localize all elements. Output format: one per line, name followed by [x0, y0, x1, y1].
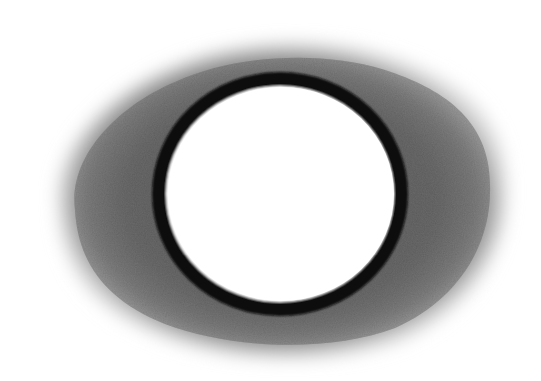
- drawing-canvas: [0, 0, 541, 381]
- ring-drawing: [0, 0, 541, 381]
- white-interior: [168, 87, 394, 301]
